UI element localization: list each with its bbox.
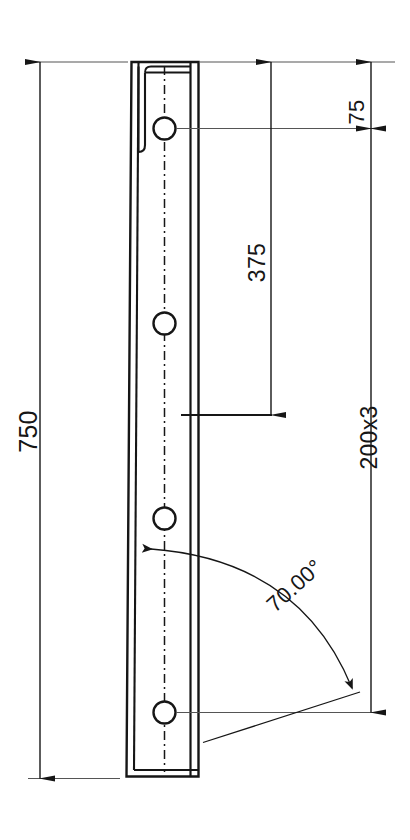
dimension-label-200x3: 200x3	[356, 405, 383, 469]
dimension-label-375: 375	[244, 243, 271, 282]
hole-3	[154, 508, 176, 530]
dimension-label-750: 750	[14, 410, 43, 453]
part-outline	[127, 62, 199, 777]
hole-2	[154, 313, 176, 335]
dimension-label-75: 75	[344, 99, 370, 124]
technical-drawing-canvas	[0, 0, 410, 840]
hole-4	[154, 702, 176, 724]
extension-lines	[28, 62, 395, 779]
hole-1	[154, 118, 176, 140]
